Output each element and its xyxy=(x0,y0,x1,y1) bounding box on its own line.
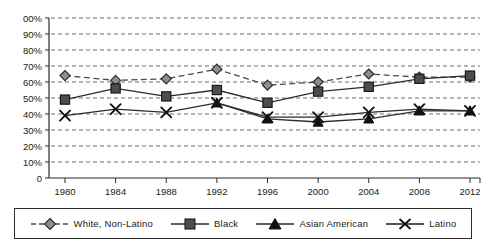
svg-text:40%: 40% xyxy=(23,109,43,120)
data-series-layer xyxy=(60,64,475,126)
diamond-dashed-key-icon xyxy=(30,217,70,231)
svg-text:2000: 2000 xyxy=(308,186,329,197)
y-axis-tick-labels: 00%90%80%70%60%50%40%30%20%10%0 xyxy=(23,13,43,184)
svg-text:1996: 1996 xyxy=(257,186,278,197)
svg-text:1984: 1984 xyxy=(105,186,126,197)
legend-label: White, Non-Latino xyxy=(74,218,153,229)
legend-item: White, Non-Latino xyxy=(30,217,153,231)
svg-text:70%: 70% xyxy=(23,61,43,72)
triangle-solid-key-icon xyxy=(255,217,295,231)
x-axis-tick-labels: 198019841988199219962000200420082012 xyxy=(54,186,480,197)
legend-item: Black xyxy=(170,217,238,231)
line-chart-svg: 00%90%80%70%60%50%40%30%20%10%0 19801984… xyxy=(0,0,488,200)
svg-text:1992: 1992 xyxy=(206,186,227,197)
svg-text:00%: 00% xyxy=(23,13,43,24)
legend-item: Asian American xyxy=(255,217,368,231)
legend-label: Asian American xyxy=(299,218,368,229)
series-white-non-latino xyxy=(60,64,475,90)
svg-text:90%: 90% xyxy=(23,29,43,40)
legend-item: Latino xyxy=(385,217,456,231)
svg-text:0: 0 xyxy=(37,173,42,184)
svg-text:2004: 2004 xyxy=(358,186,379,197)
svg-text:2008: 2008 xyxy=(409,186,430,197)
svg-text:1980: 1980 xyxy=(54,186,75,197)
cross-solid-key-icon xyxy=(385,217,425,231)
svg-text:1988: 1988 xyxy=(156,186,177,197)
svg-text:10%: 10% xyxy=(23,157,43,168)
square-solid-key-icon xyxy=(170,217,210,231)
legend-label: Latino xyxy=(429,218,456,229)
svg-text:60%: 60% xyxy=(23,77,43,88)
x-axis xyxy=(49,178,480,183)
svg-text:50%: 50% xyxy=(23,93,43,104)
chart-figure: 00%90%80%70%60%50%40%30%20%10%0 19801984… xyxy=(0,0,488,252)
svg-text:2012: 2012 xyxy=(459,186,480,197)
svg-text:80%: 80% xyxy=(23,45,43,56)
legend-label: Black xyxy=(214,218,238,229)
svg-text:20%: 20% xyxy=(23,141,43,152)
legend: White, Non-Latino Black Asian American L… xyxy=(14,208,472,239)
plot-area: 00%90%80%70%60%50%40%30%20%10%0 19801984… xyxy=(0,0,488,200)
y-axis xyxy=(45,18,49,178)
svg-text:30%: 30% xyxy=(23,125,43,136)
